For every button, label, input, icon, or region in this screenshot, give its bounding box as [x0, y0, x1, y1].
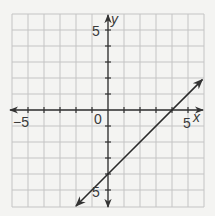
- y-axis-label: y: [110, 11, 119, 27]
- axis-labels: 5 y −5 5 x 0 5: [13, 11, 201, 200]
- x-tick-label-5: 5: [183, 115, 191, 131]
- plot-area: 5 y −5 5 x 0 5: [0, 0, 215, 216]
- y-tick-label-5: 5: [92, 23, 100, 39]
- axes: [10, 15, 203, 207]
- x-axis-label: x: [192, 109, 201, 125]
- origin-label: 0: [94, 111, 102, 127]
- x-tick-label-neg5: −5: [13, 114, 29, 130]
- coordinate-graph: 5 y −5 5 x 0 5: [0, 0, 215, 216]
- y-tick-label-neg5: 5: [92, 184, 100, 200]
